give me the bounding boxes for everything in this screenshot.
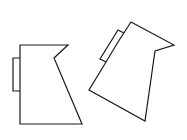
right-shape-tab [100,30,124,62]
left-shape-tab [13,58,20,91]
left-shape-body [20,45,82,124]
right-shape-body [89,22,174,121]
figure-canvas [0,0,187,140]
right-shape [89,22,174,121]
left-shape [13,45,82,124]
figure-svg [0,0,187,140]
